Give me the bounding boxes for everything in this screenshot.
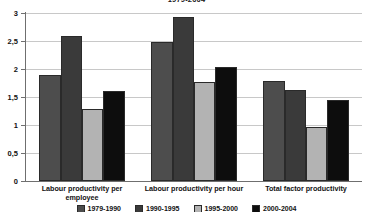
bar[interactable] [194,82,215,181]
bar-group [263,13,348,181]
bar[interactable] [173,17,194,181]
bar[interactable] [82,109,103,181]
y-axis-tick-label: 1 [0,121,18,130]
bar-group [39,13,124,181]
x-axis-line [25,181,362,182]
y-axis-tick [21,97,25,98]
bar[interactable] [39,75,60,181]
legend-swatch [135,205,143,212]
y-axis-tick [21,13,25,14]
x-axis-category-label: Labour productivity per hour [138,185,250,194]
bar[interactable] [285,90,306,181]
y-axis-tick [21,181,25,182]
legend-label: 1990-1995 [146,205,179,212]
legend-swatch [77,205,85,212]
legend-item[interactable]: 1990-1995 [135,205,179,212]
legend-swatch [194,205,202,212]
bar[interactable] [263,81,284,181]
legend-item[interactable]: 1979-1990 [77,205,121,212]
y-axis-tick-label: 0 [0,177,18,186]
legend-label: 2000-2004 [263,205,296,212]
y-axis-tick-label: 2 [0,65,18,74]
bar[interactable] [306,127,327,181]
bar-group [151,13,236,181]
bar[interactable] [151,42,172,181]
chart-legend: 1979-19901990-19951995-20002000-2004 [0,205,373,212]
chart-title: 1979-2004 [0,0,373,4]
x-axis-category-label: Total factor productivity [250,185,362,194]
bar[interactable] [103,91,124,181]
legend-label: 1995-2000 [205,205,238,212]
y-axis-tick-label: 1,5 [0,93,18,102]
plot-area [26,13,362,181]
y-axis-tick [21,69,25,70]
y-axis-tick [21,41,25,42]
y-axis-tick-label: 2,5 [0,37,18,46]
bar[interactable] [327,100,348,181]
y-axis-tick [21,153,25,154]
y-axis-tick [21,125,25,126]
y-axis-tick-label: 3 [0,9,18,18]
legend-label: 1979-1990 [88,205,121,212]
legend-swatch [252,205,260,212]
legend-item[interactable]: 2000-2004 [252,205,296,212]
legend-item[interactable]: 1995-2000 [194,205,238,212]
x-axis-category-label: Labour productivity per employee [26,185,138,202]
bar[interactable] [61,36,82,181]
y-axis-tick-label: 0,5 [0,149,18,158]
bar-chart: 1979-2004 32,521,510,50 Labour productiv… [0,0,373,212]
bar[interactable] [215,67,236,181]
